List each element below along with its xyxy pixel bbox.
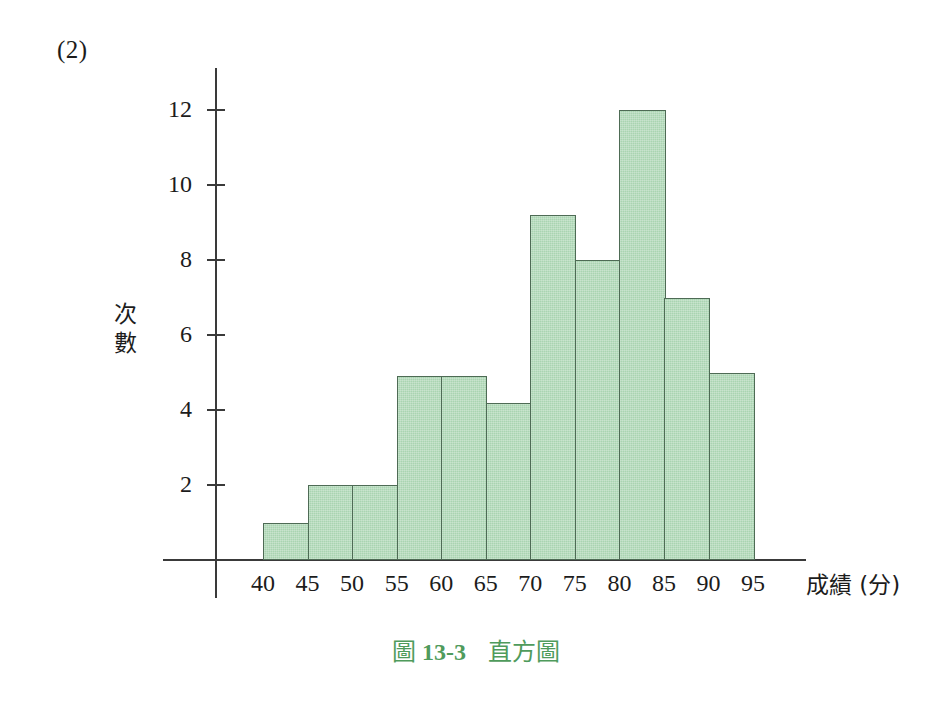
histogram-bar	[530, 215, 576, 560]
caption-prefix: 圖	[392, 638, 416, 666]
y-axis-title-char: 數	[112, 329, 138, 358]
y-axis-title-char: 次	[112, 300, 138, 329]
x-axis-tick-label: 95	[727, 570, 779, 596]
figure-root: (2) 24681012 404550556065707580859095 次數…	[0, 0, 952, 708]
histogram-bar	[441, 376, 487, 560]
y-axis-title: 次數	[112, 300, 138, 358]
histogram-plot: 24681012 404550556065707580859095 次數 成績 …	[0, 0, 952, 620]
histogram-bar	[486, 403, 532, 561]
histogram-bar	[308, 485, 354, 560]
figure-caption: 圖13-3直方圖	[0, 632, 952, 667]
x-axis-title: 成績 (分)	[806, 566, 900, 600]
histogram-bar	[397, 376, 443, 560]
caption-number: 13-3	[422, 639, 466, 665]
histogram-bar	[263, 523, 309, 561]
histogram-bar	[575, 260, 621, 560]
bar-series	[0, 0, 952, 620]
histogram-bar	[619, 110, 665, 560]
histogram-bar	[664, 298, 710, 561]
histogram-bar	[352, 485, 398, 560]
histogram-bar	[709, 373, 755, 561]
caption-title: 直方圖	[488, 638, 560, 666]
